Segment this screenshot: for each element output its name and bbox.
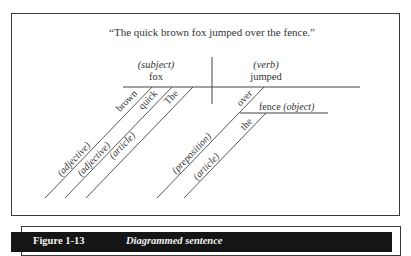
modifier-word-brown: brown	[114, 88, 140, 114]
object-word-text: fence	[259, 101, 281, 112]
verb-role-label: (verb)	[253, 59, 279, 71]
sentence-diagram: “The quick brown fox jumped over the fen…	[0, 0, 411, 230]
verb-word: jumped	[249, 71, 282, 82]
modifier-word-quick: quick	[136, 88, 159, 112]
sentence-text: “The quick brown fox jumped over the fen…	[109, 26, 315, 38]
object-word: fence (object)	[259, 101, 315, 113]
modifier-role-the: (article)	[107, 129, 139, 161]
figure-title: Diagrammed sentence	[126, 233, 223, 249]
figure-number: Figure 1-13	[33, 233, 84, 249]
modifier-word-the: The	[162, 87, 181, 106]
subject-role-label: (subject)	[138, 59, 175, 71]
object-article-word: the	[238, 115, 255, 132]
object-role: (object)	[283, 101, 315, 113]
subject-word: fox	[149, 71, 164, 82]
figure-caption: Figure 1-13 Diagrammed sentence	[11, 232, 392, 252]
preposition-line	[157, 87, 264, 198]
preposition-word: over	[234, 87, 255, 108]
